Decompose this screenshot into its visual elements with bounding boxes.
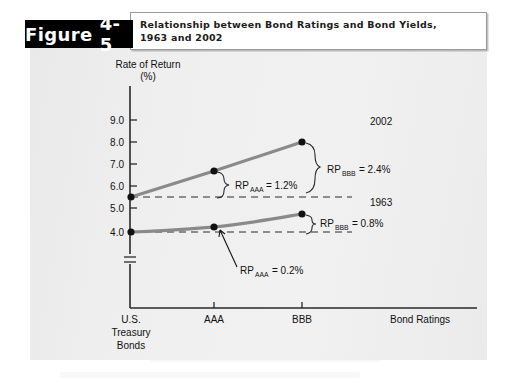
figure-title-line1: Relationship between Bond Ratings and Bo… <box>140 19 437 30</box>
figure-tag: Figure 4-5 <box>25 20 133 48</box>
x-tick-group <box>214 302 302 308</box>
annot-rp-bbb-2002-sub: BBB <box>342 170 356 177</box>
data-point-2002-aaa <box>210 167 217 174</box>
annot-rp-aaa-2002-sub: AAA <box>250 186 264 193</box>
figure-title-line2: 1963 and 2002 <box>140 32 223 43</box>
x-cat-treasury-line2: Treasury <box>111 327 150 338</box>
y-axis-label-line1: Rate of Return <box>115 59 180 70</box>
brace-rp-aaa-2002 <box>217 172 229 198</box>
y-tick-label-8: 8.0 <box>110 137 124 148</box>
x-cat-bbb: BBB <box>292 314 312 325</box>
annot-rp-aaa-2002-value: = 1.2% <box>266 180 298 191</box>
annot-rp-bbb-2002-label: RP <box>327 164 341 175</box>
x-cat-treasury-line3: Bonds <box>117 340 145 351</box>
data-point-1963-aaa <box>210 223 217 230</box>
y-tick-group <box>130 120 137 232</box>
y-tick-label-7: 7.0 <box>110 159 124 170</box>
annot-rp-aaa-1963-value: = 0.2% <box>272 265 304 276</box>
series-label-1963: 1963 <box>370 197 393 208</box>
x-cat-treasury-line1: U.S. <box>121 314 140 325</box>
data-point-1963-treasury <box>127 228 134 235</box>
x-axis-label: Bond Ratings <box>390 314 450 325</box>
y-tick-label-4: 4.0 <box>110 227 124 238</box>
figure-header: Relationship between Bond Ratings and Bo… <box>25 12 487 48</box>
brace-rp-bbb-1963 <box>306 215 316 234</box>
annot-rp-bbb-1963-label: RP <box>320 218 334 229</box>
y-tick-label-6: 6.0 <box>110 181 124 192</box>
data-point-2002-treasury <box>127 193 134 200</box>
figure-title-box: Relationship between Bond Ratings and Bo… <box>130 12 487 50</box>
figure-tag-word: Figure <box>25 24 93 45</box>
series-label-2002: 2002 <box>370 116 393 127</box>
leader-rp-aaa-1963 <box>220 230 237 267</box>
x-cat-aaa: AAA <box>204 314 224 325</box>
annot-rp-aaa-1963-label: RP <box>240 265 254 276</box>
annot-rp-aaa-2002-label: RP <box>235 180 249 191</box>
figure-title: Relationship between Bond Ratings and Bo… <box>140 18 480 44</box>
y-axis-label-line2: (%) <box>140 71 156 82</box>
annot-rp-aaa-1963-sub: AAA <box>255 271 269 278</box>
annot-rp-bbb-1963-value: = 0.8% <box>352 218 384 229</box>
annot-rp-bbb-2002-value: = 2.4% <box>359 164 391 175</box>
bond-yield-chart: Rate of Return (%) 9.0 8.0 7.0 6.0 5.0 4… <box>30 46 487 360</box>
y-tick-label-5: 5.0 <box>110 203 124 214</box>
data-point-1963-bbb <box>298 210 305 217</box>
y-tick-label-9: 9.0 <box>110 115 124 126</box>
annot-rp-bbb-1963-sub: BBB <box>335 224 349 231</box>
data-point-2002-bbb <box>298 138 305 145</box>
figure-tag-number: 4-5 <box>100 13 133 55</box>
brace-rp-bbb-2002 <box>306 143 320 193</box>
